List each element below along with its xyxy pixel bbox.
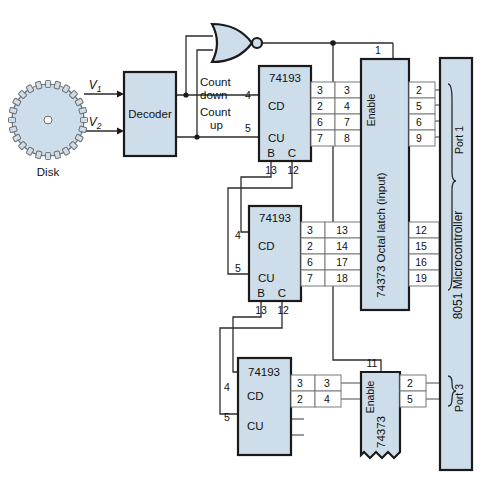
count-down-line2: down [200,89,228,101]
latch2-in-pin-2: 4 [324,393,330,405]
latch-74373-bottom: Enable 74373 11 [361,357,400,458]
latch-bottom-name: 74373 [375,416,387,448]
counter3-pin-boxes: 3 2 3 4 [291,375,341,407]
latch-bottom-enable-pin: 11 [367,357,378,369]
counter1-cd-label: CD [268,100,285,112]
counter1-name: 74193 [269,72,301,84]
microcontroller-block: 8051 Microcontroller Port 1 Port 3 [440,58,472,470]
latch-bottom-enable-label: Enable [364,380,376,413]
counter1-c-pin: 12 [287,164,299,176]
counter2-out-pin-3: 6 [307,256,313,268]
latch-in-pin-2: 4 [344,100,350,112]
decoder-block: Decoder [124,72,176,156]
disk-label: Disk [37,166,60,178]
microcontroller-name: 8051 Microcontroller [451,211,465,320]
count-down-line1: Count [200,76,231,88]
latch-top-out-7: 16 [415,256,427,268]
counter1-b-label: B [267,147,275,159]
counter1-pin-boxes: 3 2 6 7 3 4 7 8 [311,82,361,146]
counter1-b-pin: 13 [265,164,277,176]
latch-bottom-out-pin-boxes: 2 5 [400,375,426,407]
latch-in-pin-5: 13 [336,224,348,236]
latch-top-out-8: 19 [415,272,427,284]
counter2-cu-label: CU [258,272,275,284]
nor-gate [212,24,262,62]
counter-74193-1: 74193 CD CU B C 13 12 [259,66,311,176]
port3-label: Port 3 [453,384,465,412]
figure-canvas: Disk V1 V2 Decoder 74193 CD CU B C 13 12… [0,0,500,483]
latch2-in-pin-1: 3 [324,377,330,389]
latch-in-pin-6: 14 [336,240,348,252]
counter2-c-label: C [278,287,286,299]
circuit-diagram: Disk V1 V2 Decoder 74193 CD CU B C 13 12… [0,0,500,483]
latch-top-enable-label: Enable [365,93,377,126]
counter3-out-pin-2: 2 [297,393,303,405]
latch-top-out-2: 5 [416,100,422,112]
latch-in-pin-7: 17 [336,256,348,268]
counter1-out-pin-2: 2 [317,100,323,112]
counter2-name: 74193 [259,212,291,224]
junction-dot [330,40,336,46]
decoder-label: Decoder [128,108,172,120]
counter3-cu-label: CU [247,420,264,432]
latch-in-pin-1: 3 [344,84,350,96]
latch-top-out-5: 12 [415,224,427,236]
counter3-out-pin-1: 3 [297,377,303,389]
counter2-b-label: B [257,287,265,299]
counter2-out-pin-1: 3 [307,224,313,236]
disk-icon: Disk [9,81,88,179]
counter2-cu-pin: 5 [235,262,241,274]
signal-v2-label: V2 [89,115,102,131]
counter3-cd-pin: 4 [224,381,230,393]
latch-top-name: 74373 Octal latch (input) [375,172,387,297]
counter1-out-pin-1: 3 [317,84,323,96]
latch-in-pin-8: 18 [336,272,348,284]
counter2-cd-label: CD [258,240,275,252]
port1-label: Port 1 [453,126,465,154]
latch-top-out-3: 6 [416,116,422,128]
counter2-b-pin: 13 [255,304,267,316]
signal-v1-label: V1 [89,78,102,94]
counter1-out-pin-3: 6 [317,116,323,128]
junction-dot [183,92,188,97]
junction-dot [194,134,199,139]
latch-bottom-out-1: 2 [407,377,413,389]
latch-74373-top: Enable 74373 Octal latch (input) 1 [361,44,409,310]
latch-top-out-1: 2 [416,84,422,96]
count-up-line1: Count [200,106,231,118]
latch-top-out-6: 15 [415,240,427,252]
latch-top-out-4: 9 [416,132,422,144]
counter1-cd-pin: 4 [245,89,251,101]
counter2-pin-boxes: 3 2 6 7 13 14 17 18 [301,222,361,286]
counter1-cu-pin: 5 [245,122,251,134]
counter3-cd-label: CD [247,390,264,402]
counter3-cu-pin: 5 [224,411,230,423]
latch-bottom-out-2: 5 [407,393,413,405]
count-up-line2: up [210,119,223,131]
counter1-out-pin-4: 7 [317,132,323,144]
latch-in-pin-3: 7 [344,116,350,128]
gear-teeth [9,81,88,160]
latch-in-pin-4: 8 [344,132,350,144]
counter1-cu-label: CU [268,132,285,144]
counter3-name: 74193 [248,366,280,378]
counter-74193-2: 74193 CD CU B C 13 12 4 5 [235,206,301,316]
counter2-out-pin-4: 7 [307,272,313,284]
counter2-cd-pin: 4 [235,229,241,241]
latch-top-out-pin-boxes: 2 5 6 9 12 15 16 19 [409,82,439,286]
latch-top-enable-pin: 1 [375,44,381,56]
counter2-out-pin-2: 2 [307,240,313,252]
count-labels: Count down Count up 4 5 [200,76,251,134]
counter1-c-label: C [288,147,296,159]
counter2-c-pin: 12 [277,304,289,316]
